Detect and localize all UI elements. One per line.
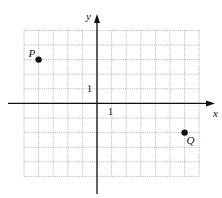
point-label-q: Q [187, 134, 195, 146]
y-axis-label: y [85, 10, 91, 22]
point-p [35, 56, 41, 62]
points: PQ [28, 47, 195, 146]
point-label-p: P [28, 47, 36, 59]
y-axis-arrow-icon [94, 14, 100, 23]
x-axis-arrow-icon [206, 100, 215, 106]
x-tick-label: 1 [108, 106, 113, 117]
coordinate-plane-figure: x y 1 1 PQ [0, 0, 222, 198]
x-axis-label: x [212, 107, 218, 119]
coordinate-plane: x y 1 1 PQ [0, 0, 222, 198]
y-tick-label: 1 [87, 83, 92, 94]
